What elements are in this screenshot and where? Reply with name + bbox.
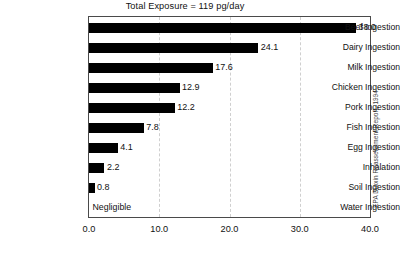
x-axis-tick-label: 40.0 (340, 224, 400, 234)
bar (89, 163, 104, 173)
category-label: Soil Ingestion (314, 182, 400, 192)
bar-value-label: 12.9 (182, 82, 200, 92)
category-label: Milk Ingestion (314, 62, 400, 72)
bar-value-label: 0.8 (97, 182, 110, 192)
bar-value-label: 7.8 (146, 122, 159, 132)
bar-negligible-label: Negligible (93, 202, 132, 212)
category-label: Water Ingestion (314, 202, 400, 212)
bar (89, 183, 95, 193)
bar (89, 103, 175, 113)
category-label: Inhalation (314, 162, 400, 172)
bar-value-label: 17.6 (215, 62, 233, 72)
x-axis-tick-label: 30.0 (270, 224, 330, 234)
bar (89, 83, 180, 93)
bar-value-label: 2.2 (107, 162, 120, 172)
x-axis-tick-label: 0.0 (59, 224, 119, 234)
bar-chart-figure: Total Exposure = 119 pg/day EPA Dioxin R… (0, 0, 400, 254)
category-label: Egg Ingestion (314, 142, 400, 152)
chart-title: Total Exposure = 119 pg/day (0, 1, 370, 11)
bar (89, 143, 118, 153)
bar (89, 123, 144, 133)
bar (89, 63, 213, 73)
bar-value-label: 38.0 (358, 22, 376, 32)
bar (89, 43, 258, 53)
bar-value-label: 24.1 (261, 42, 279, 52)
x-axis-tick-label: 20.0 (200, 224, 260, 234)
category-label: Beef Ingestion (314, 22, 400, 32)
x-axis-tick-label: 10.0 (129, 224, 189, 234)
gridline (300, 17, 301, 217)
category-label: Chicken Ingestion (314, 82, 400, 92)
bar-value-label: 12.2 (177, 102, 195, 112)
bar-value-label: 4.1 (120, 142, 133, 152)
category-label: Pork Ingestion (314, 102, 400, 112)
category-label: Dairy Ingestion (314, 42, 400, 52)
category-label: Fish Ingestion (314, 122, 400, 132)
